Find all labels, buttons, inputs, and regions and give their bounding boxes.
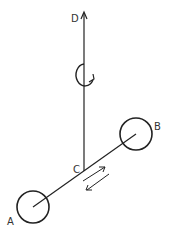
sliding-arrows-icon <box>83 167 109 190</box>
label-d: D <box>71 13 79 24</box>
label-b: B <box>154 121 161 132</box>
label-c: C <box>73 164 80 175</box>
axis-d-arrow <box>81 12 87 171</box>
rotation-arrow-icon <box>76 64 94 86</box>
label-a: A <box>7 216 14 227</box>
diagram-canvas: D A B C <box>0 0 174 237</box>
